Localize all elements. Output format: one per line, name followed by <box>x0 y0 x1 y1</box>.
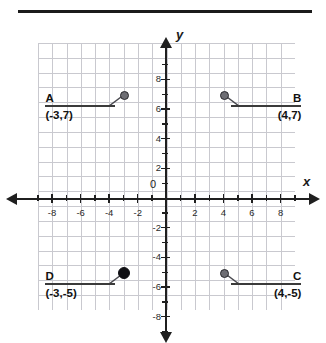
plotted-point-a <box>120 91 129 100</box>
x-axis-minor-tick <box>151 195 153 201</box>
y-axis-tick-label: 6 <box>141 103 161 114</box>
point-callout-c: C(4,-5) <box>231 270 301 299</box>
plotted-point-b <box>220 91 229 100</box>
y-axis-minor-tick <box>162 272 168 274</box>
x-axis-tick <box>251 194 253 203</box>
x-axis-right-arrow-icon <box>309 193 320 205</box>
y-axis-minor-tick <box>162 64 168 66</box>
x-axis-minor-tick <box>266 195 268 201</box>
y-axis-minor-tick <box>162 301 168 303</box>
y-axis-up-arrow-icon <box>160 37 172 48</box>
y-axis-minor-tick <box>162 153 168 155</box>
header-divider-rule <box>18 10 312 13</box>
callout-underline <box>231 283 301 284</box>
point-callout-d: D(-3,-5) <box>45 270 115 299</box>
x-axis-tick <box>194 194 196 203</box>
x-axis-minor-tick <box>180 195 182 201</box>
x-axis-line <box>10 198 316 200</box>
y-axis-tick-label: 2 <box>141 162 161 173</box>
y-axis-minor-tick <box>162 94 168 96</box>
plotted-point-c <box>220 269 229 278</box>
callout-underline <box>231 105 301 106</box>
x-axis-minor-tick <box>209 195 211 201</box>
x-axis-label: x <box>303 174 310 189</box>
point-coordinate-label: (4,-5) <box>231 286 301 300</box>
point-coordinate-label: (-3,7) <box>45 108 115 122</box>
y-axis-tick <box>161 138 170 140</box>
x-axis-tick-label: -8 <box>42 207 62 218</box>
graph-canvas: x y 0 -8-6-4-224688642-2-4-6-8 A(-3,7)B(… <box>0 18 326 341</box>
y-axis-tick <box>161 168 170 170</box>
point-callout-a: A(-3,7) <box>45 92 115 121</box>
x-axis-tick-label: -4 <box>99 207 119 218</box>
y-axis-tick-label: -8 <box>141 311 161 322</box>
y-axis-tick <box>161 108 170 110</box>
y-axis-tick <box>161 286 170 288</box>
y-axis-tick-label: -2 <box>141 222 161 233</box>
x-axis-tick <box>108 194 110 203</box>
point-letter-label: D <box>45 270 115 282</box>
x-axis-tick-label: 8 <box>271 207 291 218</box>
x-axis-tick-label: 4 <box>213 207 233 218</box>
y-axis-label: y <box>176 27 183 42</box>
callout-underline <box>45 105 115 106</box>
y-axis-down-arrow-icon <box>160 332 172 343</box>
point-coordinate-label: (-3,-5) <box>45 286 115 300</box>
x-axis-tick-label: 6 <box>242 207 262 218</box>
callout-underline <box>45 283 115 284</box>
y-axis-minor-tick <box>162 331 168 333</box>
x-axis-minor-tick <box>37 195 39 201</box>
y-axis-tick <box>161 79 170 81</box>
x-axis-minor-tick <box>66 195 68 201</box>
x-axis-tick <box>80 194 82 203</box>
y-axis-line <box>165 44 167 336</box>
x-axis-tick-label: -2 <box>128 207 148 218</box>
y-axis-minor-tick <box>162 242 168 244</box>
y-axis-tick <box>161 257 170 259</box>
x-axis-minor-tick <box>237 195 239 201</box>
y-axis-tick <box>161 227 170 229</box>
x-axis-tick-label: 2 <box>185 207 205 218</box>
x-axis-minor-tick <box>294 195 296 201</box>
y-axis-minor-tick <box>162 123 168 125</box>
y-axis-tick-label: -6 <box>141 281 161 292</box>
x-axis-minor-tick <box>94 195 96 201</box>
point-callout-b: B(4,7) <box>231 92 301 121</box>
x-axis-tick <box>223 194 225 203</box>
x-axis-left-arrow-icon <box>6 193 17 205</box>
x-axis-tick <box>51 194 53 203</box>
point-coordinate-label: (4,7) <box>231 108 301 122</box>
point-letter-label: B <box>231 92 301 104</box>
y-axis-tick <box>161 316 170 318</box>
x-axis-tick <box>280 194 282 203</box>
x-axis-minor-tick <box>123 195 125 201</box>
origin-label: 0 <box>150 178 156 190</box>
y-axis-tick-label: 8 <box>141 73 161 84</box>
point-letter-label: A <box>45 92 115 104</box>
x-axis-tick-label: -6 <box>71 207 91 218</box>
y-axis-minor-tick <box>162 183 168 185</box>
y-axis-minor-tick <box>162 212 168 214</box>
x-axis-tick <box>137 194 139 203</box>
y-axis-tick-label: -4 <box>141 251 161 262</box>
y-axis-tick-label: 4 <box>141 133 161 144</box>
point-letter-label: C <box>231 270 301 282</box>
